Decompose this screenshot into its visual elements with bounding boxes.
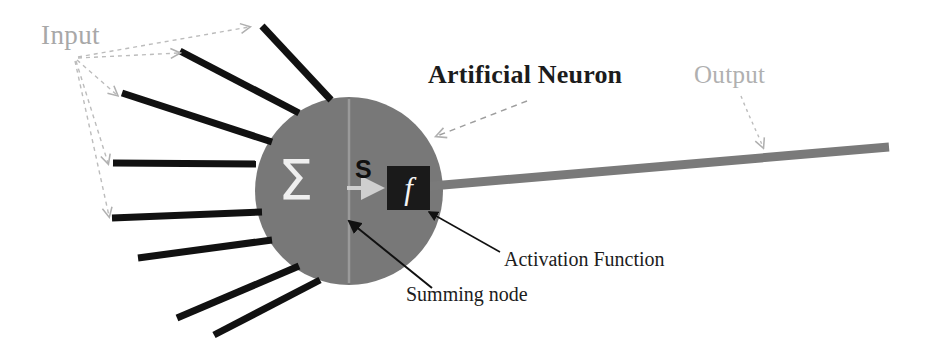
input-callout-arrow: [75, 61, 109, 216]
activation-function-leader-line: [429, 212, 500, 252]
input-callout-arrow: [76, 61, 108, 163]
output-callout-arrow: [741, 96, 763, 147]
artificial-neuron-diagram: f Σ S Input Output Artificial Neuron Act…: [0, 0, 931, 351]
artificial-neuron-label: Artificial Neuron: [428, 62, 622, 88]
input-callout-arrow-group: [75, 27, 249, 216]
output-axon: [420, 147, 889, 187]
input-dendrite: [112, 212, 262, 218]
input-dendrite: [122, 93, 272, 142]
input-dendrite: [214, 280, 320, 335]
input-dendrite: [180, 51, 299, 113]
input-callout-arrow: [78, 53, 179, 58]
input-label: Input: [41, 22, 100, 49]
input-dendrite: [177, 266, 299, 318]
input-callout-arrow: [77, 60, 117, 95]
output-label: Output: [694, 62, 765, 87]
activation-function-label: Activation Function: [504, 249, 665, 269]
sum-signal-label: S: [355, 157, 372, 182]
input-dendrite: [113, 163, 256, 164]
input-callout-arrow: [78, 27, 249, 57]
activation-function-box: f: [387, 166, 430, 210]
neuron-callout-arrow: [437, 101, 527, 136]
input-dendrite: [138, 240, 272, 258]
summation-sigma-symbol: Σ: [278, 152, 313, 208]
input-dendrite: [262, 26, 331, 100]
activation-function-symbol: f: [387, 166, 430, 210]
summing-node-label: Summing node: [406, 284, 528, 304]
